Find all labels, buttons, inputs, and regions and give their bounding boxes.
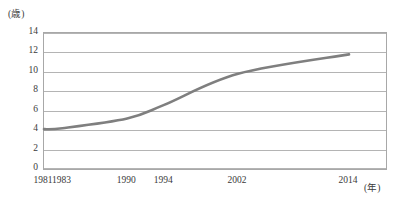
y-axis-tick-labels: 14121086420	[0, 32, 38, 168]
y-axis-unit-label: (歳)	[8, 6, 24, 20]
y-tick-label: 12	[4, 47, 38, 57]
x-tick-label: 2014	[339, 176, 358, 186]
y-tick-label: 2	[4, 144, 38, 154]
y-tick-label: 6	[4, 105, 38, 115]
y-tick-label: 0	[4, 163, 38, 173]
y-tick-label: 10	[4, 66, 38, 76]
plot-area	[43, 32, 387, 170]
y-tick-label: 14	[4, 27, 38, 37]
series-line-group	[44, 33, 386, 169]
x-tick-label: 1981	[34, 176, 53, 186]
x-tick-label: 1994	[154, 176, 173, 186]
x-tick-label: 1983	[52, 176, 71, 186]
x-tick-label: 1990	[117, 176, 136, 186]
y-tick-label: 4	[4, 124, 38, 134]
series-line-path	[44, 54, 349, 129]
line-chart: (歳) (年) 14121086420 19811983199019942002…	[0, 0, 401, 205]
x-tick-label: 2002	[228, 176, 247, 186]
y-tick-label: 8	[4, 86, 38, 96]
x-axis-tick-labels: 198119831990199420022014	[43, 176, 385, 190]
